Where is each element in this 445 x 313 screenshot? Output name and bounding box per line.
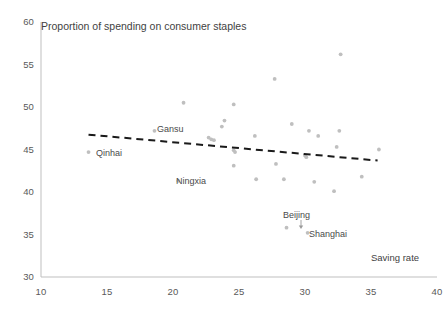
data-point	[220, 125, 224, 129]
x-tick-label: 30	[293, 286, 317, 297]
y-tick-label: 50	[14, 101, 34, 112]
beijing-arrow-head	[299, 226, 303, 230]
beijing-pointer-arrow	[299, 220, 303, 229]
data-point	[316, 134, 320, 138]
data-point	[274, 162, 278, 166]
plot-area	[0, 0, 445, 313]
data-point	[335, 145, 339, 149]
data-point	[87, 150, 91, 154]
x-tick-label: 40	[425, 286, 445, 297]
x-tick-label: 10	[29, 286, 53, 297]
gansu-label: Gansu	[157, 124, 184, 134]
scatter-chart: Proportion of spending on consumer stapl…	[0, 0, 445, 313]
qinhai-label: Qinhai	[96, 148, 122, 158]
data-point	[304, 155, 308, 159]
y-tick-label: 60	[14, 16, 34, 27]
data-point	[360, 175, 364, 179]
data-point	[253, 134, 257, 138]
data-point	[377, 148, 381, 152]
shanghai-label: Shanghai	[309, 229, 347, 239]
data-point	[182, 101, 186, 105]
data-point	[254, 177, 258, 181]
y-tick-label: 35	[14, 229, 34, 240]
data-point	[332, 189, 336, 193]
data-point	[232, 103, 236, 107]
chart-title: Proportion of spending on consumer stapl…	[41, 20, 246, 32]
data-point	[312, 180, 316, 184]
x-tick-label: 15	[95, 286, 119, 297]
data-point	[307, 129, 311, 133]
data-point	[233, 150, 237, 154]
data-point	[153, 129, 157, 133]
x-tick-label: 20	[161, 286, 185, 297]
y-tick-label: 55	[14, 59, 34, 70]
x-tick-label: 25	[227, 286, 251, 297]
y-tick-label: 45	[14, 144, 34, 155]
data-point	[223, 119, 227, 123]
ningxia-label: Ningxia	[176, 176, 206, 186]
data-point	[212, 138, 216, 142]
y-tick-label: 30	[14, 271, 34, 282]
data-point	[282, 177, 286, 181]
x-tick-label: 35	[359, 286, 383, 297]
data-point	[285, 226, 289, 230]
beijing-label: Beijing	[283, 210, 310, 220]
trendline-group	[89, 135, 378, 161]
trendline	[89, 135, 378, 161]
data-point	[273, 77, 277, 81]
data-point	[290, 122, 294, 126]
data-point	[337, 129, 341, 133]
data-point	[339, 52, 343, 56]
data-point	[232, 164, 236, 168]
data-points-group	[87, 52, 381, 234]
x-axis-title: Saving rate	[371, 252, 419, 263]
y-tick-label: 40	[14, 186, 34, 197]
